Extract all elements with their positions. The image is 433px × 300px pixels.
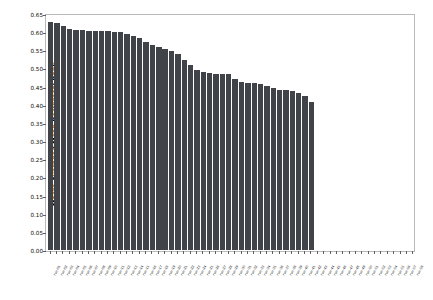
x-axis-tick-mark xyxy=(304,251,305,254)
y-axis-tick-mark xyxy=(43,215,46,216)
x-axis-tick-mark xyxy=(336,251,337,254)
x-axis-tick-mark xyxy=(310,251,311,254)
x-axis-tick-mark xyxy=(317,251,318,254)
bar xyxy=(156,47,161,250)
bar xyxy=(271,88,276,250)
bar xyxy=(194,70,199,250)
bar xyxy=(207,73,212,250)
x-axis-tick-mark xyxy=(368,251,369,254)
x-axis-tick-mark xyxy=(323,251,324,254)
x-axis-tick-mark xyxy=(234,251,235,254)
x-axis-tick-mark xyxy=(247,251,248,254)
x-axis-tick-mark xyxy=(158,251,159,254)
x-axis-tick-mark xyxy=(164,251,165,254)
bar xyxy=(48,22,53,250)
x-axis-tick-mark xyxy=(75,251,76,254)
y-axis-tick-mark xyxy=(43,178,46,179)
y-axis-tick-mark xyxy=(43,33,46,34)
chart-figure: Macro Averaged Mean Reciprocal Rank 0.00… xyxy=(0,0,433,300)
x-axis-tick-mark xyxy=(139,251,140,254)
x-axis-tick-mark xyxy=(196,251,197,254)
bar xyxy=(252,83,257,250)
x-axis-tick-mark xyxy=(82,251,83,254)
bar xyxy=(124,34,129,250)
y-axis-tick-mark xyxy=(43,251,46,252)
bar xyxy=(201,72,206,250)
x-axis-tick-mark xyxy=(393,251,394,254)
x-axis-tick-mark xyxy=(190,251,191,254)
bar xyxy=(105,31,110,250)
x-axis-tick-mark xyxy=(412,251,413,254)
x-axis-tick-mark xyxy=(145,251,146,254)
x-axis-tick-mark xyxy=(209,251,210,254)
bar xyxy=(182,60,187,250)
bar xyxy=(150,45,155,250)
x-axis-tick-mark xyxy=(380,251,381,254)
bar xyxy=(112,32,117,250)
bar xyxy=(309,102,314,250)
bar xyxy=(175,54,180,250)
x-axis-tick-mark xyxy=(113,251,114,254)
x-axis-tick-mark xyxy=(183,251,184,254)
plot-area: Macro Averaged Mean Reciprocal Rank 0.00… xyxy=(45,14,415,252)
x-axis-tick-mark xyxy=(387,251,388,254)
y-axis-tick-mark xyxy=(43,106,46,107)
bar xyxy=(296,93,301,250)
bar xyxy=(290,91,295,250)
x-axis-tick-mark xyxy=(298,251,299,254)
x-axis-tick-mark xyxy=(126,251,127,254)
x-axis-tick-mark xyxy=(342,251,343,254)
x-axis-tick-mark xyxy=(228,251,229,254)
x-axis-tick-mark xyxy=(400,251,401,254)
x-axis-tick-mark xyxy=(272,251,273,254)
y-axis-tick-mark xyxy=(43,69,46,70)
bar xyxy=(264,86,269,250)
bar xyxy=(283,90,288,250)
bar xyxy=(54,23,59,250)
x-axis-tick-mark xyxy=(88,251,89,254)
x-axis-tick-mark xyxy=(132,251,133,254)
x-axis-tick-mark xyxy=(355,251,356,254)
y-axis-tick-mark xyxy=(43,88,46,89)
bar xyxy=(73,30,78,250)
x-axis-tick-mark xyxy=(279,251,280,254)
x-axis-tick-mark xyxy=(406,251,407,254)
y-axis-tick-mark xyxy=(43,124,46,125)
y-axis-tick-mark xyxy=(43,160,46,161)
bar-series xyxy=(47,16,413,250)
x-axis-tick-mark xyxy=(349,251,350,254)
x-axis-tick-mark xyxy=(221,251,222,254)
y-axis-tick-mark xyxy=(43,15,46,16)
bar xyxy=(67,29,72,250)
bar xyxy=(277,90,282,250)
x-axis-tick-mark xyxy=(62,251,63,254)
bar xyxy=(118,32,123,250)
x-axis-tick-mark xyxy=(50,251,51,254)
x-axis-tick-mark xyxy=(291,251,292,254)
y-axis-tick-mark xyxy=(43,51,46,52)
bar xyxy=(239,82,244,250)
x-axis-tick-mark xyxy=(69,251,70,254)
x-axis-tick-mark xyxy=(285,251,286,254)
bar xyxy=(258,84,263,250)
x-axis-tick-mark xyxy=(177,251,178,254)
y-axis-tick-mark xyxy=(43,233,46,234)
bar xyxy=(226,74,231,250)
bar xyxy=(61,26,66,250)
y-axis-tick-mark xyxy=(43,197,46,198)
x-axis-tick-mark xyxy=(215,251,216,254)
bar xyxy=(188,65,193,250)
bar xyxy=(213,74,218,250)
x-axis-tick-mark xyxy=(260,251,261,254)
bar xyxy=(93,31,98,250)
x-axis-tick-mark xyxy=(94,251,95,254)
bar xyxy=(99,31,104,250)
x-axis-tick-mark xyxy=(107,251,108,254)
bar xyxy=(86,31,91,250)
bar xyxy=(162,49,167,250)
x-axis-tick-mark xyxy=(151,251,152,254)
bar xyxy=(220,74,225,250)
bar xyxy=(137,38,142,250)
x-axis-tick-mark xyxy=(253,251,254,254)
bar xyxy=(80,30,85,250)
